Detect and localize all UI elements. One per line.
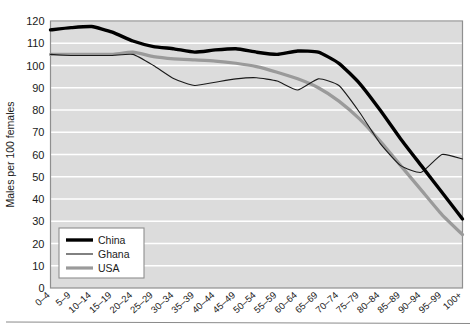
svg-text:Ghana: Ghana xyxy=(98,248,130,260)
svg-text:China: China xyxy=(98,234,126,246)
chart-legend: ChinaGhanaUSA xyxy=(59,228,144,278)
chart-figure: 0102030405060708090100110120 Males per 1… xyxy=(0,0,476,334)
svg-text:100: 100 xyxy=(26,60,44,72)
svg-text:USA: USA xyxy=(98,262,120,274)
svg-text:50: 50 xyxy=(32,171,44,183)
svg-text:70: 70 xyxy=(32,126,44,138)
svg-text:120: 120 xyxy=(26,15,44,27)
svg-text:Males per 100 females: Males per 100 females xyxy=(4,101,16,207)
svg-text:110: 110 xyxy=(27,37,45,49)
svg-text:30: 30 xyxy=(32,215,44,227)
svg-text:40: 40 xyxy=(32,193,44,205)
y-axis-title: Males per 100 females xyxy=(4,101,16,207)
svg-text:20: 20 xyxy=(32,238,44,250)
svg-text:90: 90 xyxy=(32,82,44,94)
svg-text:60: 60 xyxy=(32,149,44,161)
svg-text:10: 10 xyxy=(32,260,44,272)
population-sex-ratio-line-chart: 0102030405060708090100110120 Males per 1… xyxy=(0,0,476,334)
svg-text:80: 80 xyxy=(32,104,44,116)
